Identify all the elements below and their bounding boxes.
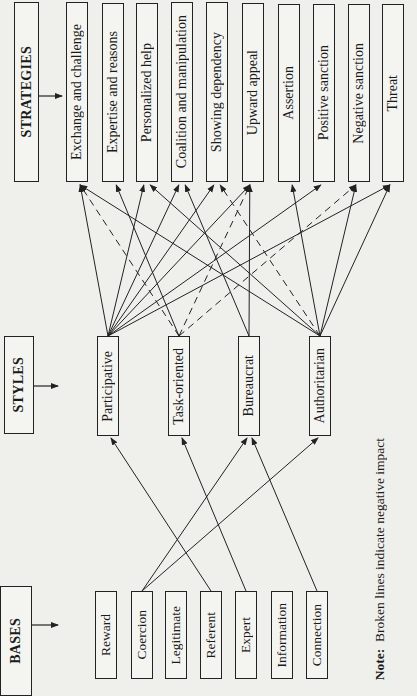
base-box-coercion: Coercion [131, 591, 153, 679]
base-label: Expert [238, 617, 254, 653]
edge-participative-to-coalition-and-manipulation [108, 185, 179, 336]
edge-task-oriented-to-negative-sanction [179, 185, 356, 336]
note-prefix: Note: [372, 649, 387, 680]
strategy-box-expertise-and-reasons: Expertise and reasons [102, 3, 124, 182]
edge-coercion-to-authoritarian [142, 438, 318, 591]
edge-authoritarian-to-negative-sanction [320, 185, 356, 336]
edge-referent-to-participative [111, 438, 211, 591]
style-box-task-oriented: Task-oriented [168, 336, 190, 436]
bases-heading: BASES [8, 618, 24, 664]
strategy-box-positive-sanction: Positive sanction [313, 4, 335, 182]
edge-connection-to-bureaucrat [252, 438, 317, 591]
edge-authoritarian-to-assertion [292, 185, 320, 336]
base-label: Information [274, 603, 290, 667]
edge-coercion-to-bureaucrat [142, 438, 247, 591]
edge-authoritarian-to-personalized-help [150, 185, 320, 336]
base-label: Connection [309, 604, 325, 666]
style-label: Bureaucrat [241, 355, 257, 416]
strategy-label: Exchange and challenge [69, 24, 85, 160]
strategy-label: Showing dependency [209, 32, 225, 152]
strategy-box-exchange-and-challenge: Exchange and challenge [66, 2, 88, 182]
style-label: Task-oriented [171, 348, 187, 425]
base-label: Legitimate [168, 606, 184, 664]
strategy-box-assertion: Assertion [278, 4, 300, 182]
bases-heading-box: BASES [0, 586, 32, 696]
edge-expert-to-task-oriented [182, 438, 246, 591]
strategy-label: Threat [385, 75, 401, 112]
strategy-box-personalized-help: Personalized help [136, 3, 158, 182]
strategy-label: Negative sanction [351, 43, 367, 144]
base-box-legitimate: Legitimate [165, 591, 187, 679]
strategy-label: Upward appeal [245, 50, 261, 135]
edge-bureaucrat-to-upward-appeal [249, 185, 250, 336]
strategy-box-upward-appeal: Upward appeal [242, 3, 264, 182]
base-box-information: Information [271, 591, 293, 679]
base-label: Reward [98, 614, 114, 656]
note-caption: Note: Broken lines indicate negative imp… [372, 300, 388, 680]
strategies-heading: STRATEGIES [19, 46, 35, 137]
base-box-connection: Connection [306, 591, 328, 679]
base-label: Referent [203, 612, 219, 658]
base-label: Coercion [134, 610, 150, 660]
style-label: Participative [100, 351, 116, 422]
note-text: Broken lines indicate negative impact [372, 438, 387, 642]
edge-bureaucrat-to-coalition-and-manipulation [185, 185, 249, 336]
style-box-bureaucrat: Bureaucrat [238, 336, 260, 436]
strategy-box-showing-dependency: Showing dependency [206, 2, 228, 182]
edge-participative-to-exchange-and-challenge [80, 185, 108, 336]
strategy-label: Expertise and reasons [105, 31, 121, 153]
strategy-label: Coalition and manipulation [174, 15, 190, 168]
strategy-box-coalition-and-manipulation: Coalition and manipulation [171, 2, 193, 182]
style-box-authoritarian: Authoritarian [309, 336, 331, 436]
edge-participative-to-positive-sanction [108, 185, 321, 336]
style-label: Authoritarian [312, 348, 328, 423]
styles-heading: STYLES [11, 357, 27, 413]
base-box-expert: Expert [235, 591, 257, 679]
strategy-box-negative-sanction: Negative sanction [348, 4, 370, 182]
base-box-reward: Reward [95, 591, 117, 679]
edge-participative-to-showing-dependency [108, 185, 214, 336]
edge-authoritarian-to-exchange-and-challenge [80, 185, 320, 336]
strategies-heading-box: STRATEGIES [14, 2, 39, 182]
strategy-box-threat: Threat [382, 4, 404, 182]
strategy-label: Assertion [281, 66, 297, 120]
style-box-participative: Participative [97, 336, 119, 436]
base-box-referent: Referent [200, 591, 222, 679]
styles-heading-box: STYLES [4, 336, 34, 434]
strategy-label: Positive sanction [316, 45, 332, 140]
strategy-label: Personalized help [139, 43, 155, 142]
